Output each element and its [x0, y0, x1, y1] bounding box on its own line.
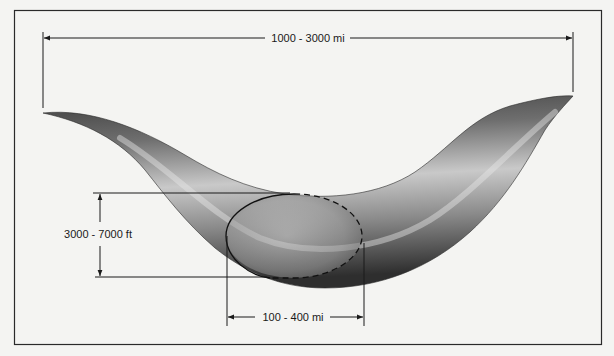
depth-label: 3000 - 7000 ft — [64, 228, 132, 240]
diagram-canvas: 1000 - 3000 mi 3000 - 7000 ft 100 - 400 … — [0, 0, 614, 356]
length-dimension: 1000 - 3000 mi — [43, 32, 573, 108]
length-label: 1000 - 3000 mi — [271, 32, 344, 44]
tube-shape — [43, 96, 573, 288]
width-label: 100 - 400 mi — [262, 311, 323, 323]
